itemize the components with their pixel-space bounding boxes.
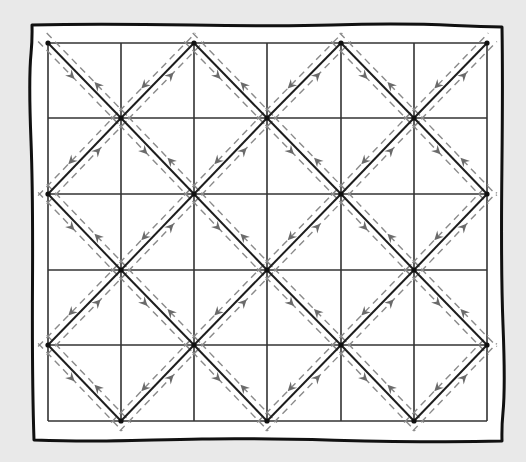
node-dot-icon bbox=[191, 191, 196, 196]
node-dot-icon bbox=[338, 40, 343, 45]
node-dot-icon bbox=[45, 191, 50, 196]
node-dot-icon bbox=[191, 40, 196, 45]
quilt-diagram bbox=[0, 0, 526, 462]
node-dot-icon bbox=[264, 267, 269, 272]
node-dot-icon bbox=[411, 418, 416, 423]
node-dot-icon bbox=[338, 342, 343, 347]
node-dot-icon bbox=[264, 115, 269, 120]
node-dot-icon bbox=[191, 342, 196, 347]
node-dot-icon bbox=[118, 418, 123, 423]
node-dot-icon bbox=[411, 115, 416, 120]
node-dot-icon bbox=[484, 191, 489, 196]
node-dot-icon bbox=[118, 267, 123, 272]
node-dot-icon bbox=[45, 40, 50, 45]
node-dot-icon bbox=[484, 342, 489, 347]
node-dot-icon bbox=[45, 342, 50, 347]
node-dot-icon bbox=[118, 115, 123, 120]
node-dot-icon bbox=[411, 267, 416, 272]
node-dot-icon bbox=[484, 40, 489, 45]
node-dot-icon bbox=[338, 191, 343, 196]
diagram-canvas bbox=[0, 0, 526, 462]
node-dot-icon bbox=[264, 418, 269, 423]
